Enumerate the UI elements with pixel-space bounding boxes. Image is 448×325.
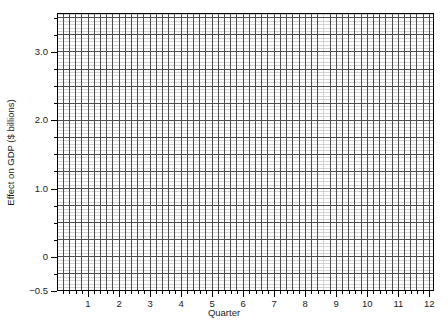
y-tick-minor xyxy=(54,103,57,104)
x-tick-major xyxy=(336,291,337,297)
x-tick-minor xyxy=(138,291,139,294)
y-tick-minor xyxy=(54,154,57,155)
x-tick-minor xyxy=(373,291,374,294)
x-tick-minor xyxy=(262,291,263,294)
y-tick-minor xyxy=(54,274,57,275)
x-tick-minor xyxy=(423,291,424,294)
x-tick-minor xyxy=(82,291,83,294)
y-tick-minor xyxy=(54,86,57,87)
x-tick-minor xyxy=(218,291,219,294)
x-tick-minor xyxy=(94,291,95,294)
x-tick-minor xyxy=(194,291,195,294)
x-tick-minor xyxy=(162,291,163,294)
x-tick-minor xyxy=(144,291,145,294)
x-tick-minor xyxy=(100,291,101,294)
grid-lines xyxy=(57,13,434,291)
x-tick-minor xyxy=(231,291,232,294)
x-tick-minor xyxy=(200,291,201,294)
x-tick-minor xyxy=(237,291,238,294)
x-tick-minor xyxy=(299,291,300,294)
x-tick-major xyxy=(305,291,306,297)
x-tick-major xyxy=(367,291,368,297)
x-tick-minor xyxy=(69,291,70,294)
x-tick-minor xyxy=(355,291,356,294)
y-tick-minor xyxy=(54,69,57,70)
x-tick-major xyxy=(119,291,120,297)
x-tick-minor xyxy=(417,291,418,294)
x-tick-minor xyxy=(361,291,362,294)
x-tick-minor xyxy=(268,291,269,294)
x-tick-major xyxy=(212,291,213,297)
x-tick-major xyxy=(429,291,430,297)
x-axis-title: Quarter xyxy=(0,307,448,318)
x-tick-minor xyxy=(311,291,312,294)
x-tick-minor xyxy=(76,291,77,294)
y-axis-title-wrapper: Effect on GDP ($ billions) xyxy=(0,0,20,304)
y-tick-major xyxy=(51,52,57,53)
x-tick-minor xyxy=(175,291,176,294)
plot-area xyxy=(57,13,434,291)
y-tick-major xyxy=(51,291,57,292)
x-tick-minor xyxy=(249,291,250,294)
x-tick-minor xyxy=(386,291,387,294)
x-tick-minor xyxy=(380,291,381,294)
x-tick-minor xyxy=(330,291,331,294)
x-tick-major xyxy=(150,291,151,297)
x-tick-minor xyxy=(256,291,257,294)
x-tick-major xyxy=(274,291,275,297)
x-tick-minor xyxy=(318,291,319,294)
x-tick-minor xyxy=(293,291,294,294)
x-tick-minor xyxy=(107,291,108,294)
x-tick-major xyxy=(181,291,182,297)
y-tick-minor xyxy=(54,223,57,224)
y-tick-minor xyxy=(54,35,57,36)
y-tick-major xyxy=(51,257,57,258)
x-tick-major xyxy=(243,291,244,297)
x-tick-minor xyxy=(206,291,207,294)
x-tick-minor xyxy=(324,291,325,294)
y-tick-major xyxy=(51,120,57,121)
x-tick-minor xyxy=(287,291,288,294)
x-tick-minor xyxy=(131,291,132,294)
chart-figure: 123456789101112 3.02.01.00−0.5 Quarter E… xyxy=(0,0,448,325)
x-tick-major xyxy=(398,291,399,297)
x-tick-minor xyxy=(349,291,350,294)
x-tick-minor xyxy=(125,291,126,294)
x-tick-minor xyxy=(411,291,412,294)
x-tick-minor xyxy=(342,291,343,294)
y-tick-minor xyxy=(54,240,57,241)
x-tick-minor xyxy=(156,291,157,294)
x-tick-minor xyxy=(280,291,281,294)
x-tick-minor xyxy=(392,291,393,294)
y-tick-minor xyxy=(54,206,57,207)
y-tick-major xyxy=(51,189,57,190)
x-tick-minor xyxy=(63,291,64,294)
x-tick-minor xyxy=(169,291,170,294)
x-tick-minor xyxy=(187,291,188,294)
x-tick-minor xyxy=(405,291,406,294)
y-axis-title: Effect on GDP ($ billions) xyxy=(5,99,16,205)
x-tick-minor xyxy=(225,291,226,294)
y-tick-minor xyxy=(54,18,57,19)
y-tick-minor xyxy=(54,137,57,138)
x-tick-minor xyxy=(113,291,114,294)
y-tick-minor xyxy=(54,171,57,172)
x-tick-major xyxy=(88,291,89,297)
